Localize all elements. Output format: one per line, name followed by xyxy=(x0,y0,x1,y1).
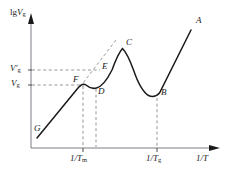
point-label-d: D xyxy=(98,87,105,96)
point-label-g: G xyxy=(34,124,41,133)
ytick-label-vg-prime: V′g xyxy=(10,64,21,74)
point-label-e: E xyxy=(102,62,108,71)
chart-canvas xyxy=(0,0,229,176)
y-axis-label: lgVg xyxy=(10,8,26,18)
xtick-label-tm: 1/Tm xyxy=(70,154,87,164)
figure-container: lgVg V′g Vg 1/Tm 1/Tg 1/T A B C D E F G xyxy=(0,0,229,176)
xtick-label-tg-num: 1/ xyxy=(146,153,153,163)
y-axis-label-sub: g xyxy=(23,10,26,17)
xtick-label-tg: 1/Tg xyxy=(146,154,161,164)
y-axis-arrowhead xyxy=(28,13,34,24)
ytick-label-vg-sub: g xyxy=(17,81,20,88)
x-axis-label-var: T xyxy=(203,153,208,163)
x-axis-label-num: 1/ xyxy=(196,153,203,163)
x-axis-arrowhead xyxy=(209,145,220,151)
point-label-f: F xyxy=(73,75,79,84)
point-label-c: C xyxy=(126,38,132,47)
ytick-label-vg: Vg xyxy=(11,79,20,89)
ytick-label-vg-prime-sub: g xyxy=(17,66,20,73)
point-label-a: A xyxy=(196,16,202,25)
x-axis-label: 1/T xyxy=(196,154,208,163)
point-label-b: B xyxy=(161,88,167,97)
main-curve xyxy=(37,30,191,138)
xtick-label-tm-num: 1/ xyxy=(70,153,77,163)
tangent-dashed-line xyxy=(80,40,116,87)
xtick-label-tg-sub: g xyxy=(158,156,161,163)
y-axis-label-prefix: lg xyxy=(10,7,17,17)
xtick-label-tm-sub: m xyxy=(82,156,87,163)
